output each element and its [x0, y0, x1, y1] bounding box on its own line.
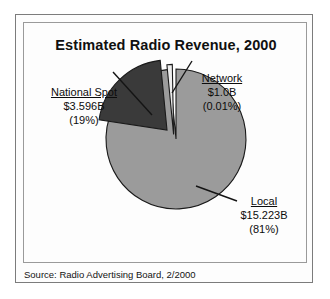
callout-national-spot-percent: (19%): [32, 113, 136, 127]
callout-network-value: $1.0B: [184, 85, 260, 99]
callout-network-name: Network: [184, 71, 260, 85]
callout-local-percent: (81%): [224, 222, 304, 236]
plot-area: Estimated Radio Revenue, 2000 National S…: [23, 22, 307, 263]
callout-network-percent: (0.01%): [184, 99, 260, 113]
chart-frame: Estimated Radio Revenue, 2000 National S…: [15, 14, 313, 283]
callout-national-spot-name: National Spot: [32, 85, 136, 99]
source-note: Source: Radio Advertising Board, 2/2000: [24, 269, 196, 280]
callout-national-spot-value: $3.596B: [32, 99, 136, 113]
callout-national-spot: National Spot $3.596B (19%): [32, 85, 136, 127]
callout-local: Local $15.223B (81%): [224, 194, 304, 236]
callout-local-name: Local: [224, 194, 304, 208]
callout-network: Network $1.0B (0.01%): [184, 71, 260, 113]
callout-local-value: $15.223B: [224, 208, 304, 222]
